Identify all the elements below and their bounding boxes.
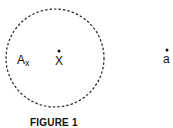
set-label-main: A — [17, 53, 25, 67]
center-point — [58, 50, 61, 53]
set-label-subscript: x — [25, 58, 30, 68]
figure-caption: FIGURE 1 — [30, 118, 78, 128]
set-label: Ax — [17, 54, 30, 68]
outside-point-label: a — [163, 53, 170, 65]
center-point-label: X — [55, 55, 63, 67]
